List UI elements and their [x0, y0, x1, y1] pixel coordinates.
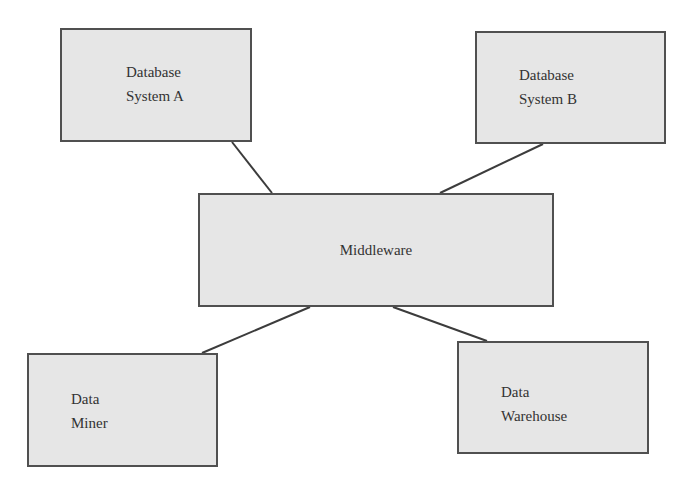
edge-middleware-to-data-miner [202, 307, 310, 353]
diagram-canvas: Database System A Database System B Midd… [0, 0, 691, 500]
node-data-warehouse: Data Warehouse [457, 341, 649, 454]
node-data-miner: Data Miner [27, 353, 218, 467]
node-label-line2: System B [519, 87, 577, 111]
edge-database-b-to-middleware [440, 144, 543, 193]
node-middleware: Middleware [198, 193, 554, 307]
node-database-system-a: Database System A [60, 28, 252, 142]
edge-middleware-to-data-warehouse [393, 307, 487, 341]
node-label: Data Warehouse [501, 380, 567, 428]
node-label-line2: System A [126, 84, 184, 108]
node-database-system-b: Database System B [475, 31, 666, 144]
node-label-line1: Database [519, 63, 577, 87]
node-label: Data Miner [71, 387, 108, 435]
node-label-line1: Data [501, 380, 567, 404]
node-label-line1: Data [71, 387, 108, 411]
node-label-line1: Database [126, 60, 184, 84]
edge-database-a-to-middleware [232, 142, 272, 193]
node-label: Database System B [519, 63, 577, 111]
node-label-line2: Miner [71, 411, 108, 435]
node-label: Database System A [126, 60, 184, 108]
node-label: Middleware [200, 238, 552, 262]
node-label-line2: Warehouse [501, 404, 567, 428]
